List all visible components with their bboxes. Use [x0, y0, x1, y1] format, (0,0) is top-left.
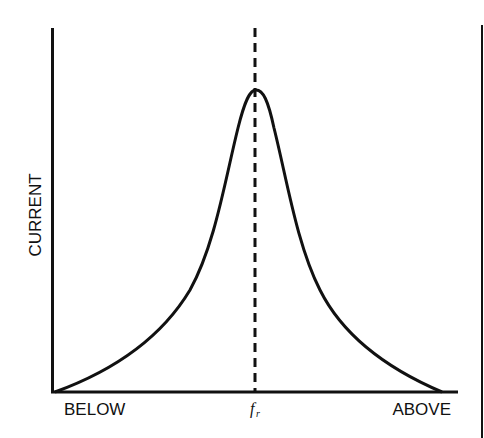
- x-label-below: BELOW: [64, 400, 125, 419]
- x-label-fr-subscript: r: [256, 408, 260, 419]
- resonance-diagram: CURRENT BELOW ABOVE f r: [0, 0, 484, 438]
- resonance-curve: [55, 90, 442, 392]
- x-label-above: ABOVE: [392, 400, 451, 419]
- y-axis-label: CURRENT: [26, 173, 45, 256]
